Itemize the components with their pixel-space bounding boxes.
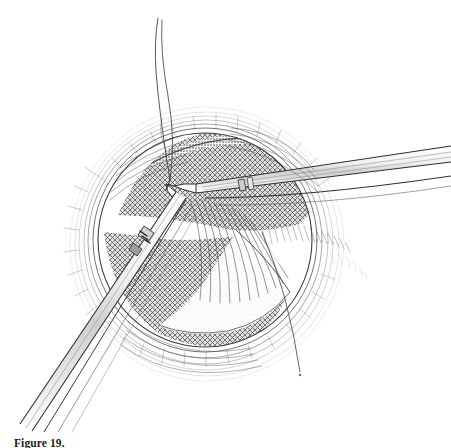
figure-caption: Figure 19. [14, 437, 434, 448]
figure-page: Figure 19. [0, 0, 451, 448]
figure-caption-label: Figure 19. [14, 437, 65, 448]
figure-illustration [0, 0, 451, 432]
suture-tail-end [299, 374, 301, 376]
surgical-illustration-svg [0, 0, 451, 432]
